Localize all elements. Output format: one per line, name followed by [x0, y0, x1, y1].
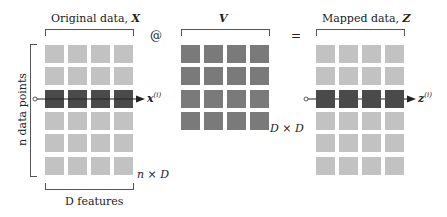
matrix-z-cell [316, 157, 335, 175]
matrix-v-shape-text: D × D [270, 122, 304, 135]
matrix-z-cell [385, 67, 404, 85]
matrix-v-symbol: V [219, 12, 228, 25]
matrix-z-cell [362, 45, 381, 63]
matrix-v-cell [181, 112, 200, 130]
matrix-z-cell [339, 112, 358, 130]
matrix-z-title: Mapped data, Z [322, 12, 411, 25]
matrix-z-cell [362, 157, 381, 175]
equals-operator: = [291, 29, 301, 43]
matrix-v-cell [181, 45, 200, 63]
x-row-vector-superscript: (i) [154, 91, 162, 99]
z-row-vector-superscript: (i) [424, 91, 432, 99]
matrix-v-cell [181, 90, 200, 108]
matrix-v-cell [181, 67, 200, 85]
matrix-v-shape-label: D × D [270, 122, 304, 135]
matmul-operator: @ [150, 29, 162, 43]
matrix-z-cell [385, 157, 404, 175]
matrix-v-cell [227, 45, 246, 63]
matrix-z-cell [339, 134, 358, 152]
matrix-z-cell [316, 67, 335, 85]
matrix-v-cell [204, 45, 223, 63]
matrix-v-cell [227, 112, 246, 130]
matrix-z-top-bracket [316, 29, 405, 36]
z-row-vector-label: z(i) [418, 91, 432, 105]
matrix-z-cell [385, 112, 404, 130]
matrix-v-cell [250, 90, 269, 108]
matrix-v-cell [227, 90, 246, 108]
matrix-v-cell [250, 67, 269, 85]
matrix-z-highlight-cell [385, 90, 404, 108]
matrix-z-title-prefix: Mapped data, [322, 12, 403, 25]
matrix-z-cell [362, 134, 381, 152]
matrix-v-cell [227, 67, 246, 85]
matrix-z-cell [385, 134, 404, 152]
matrix-z-cell [362, 112, 381, 130]
matrix-z-cell [316, 45, 335, 63]
equals-symbol: = [291, 29, 301, 43]
matrix-v-cell [250, 45, 269, 63]
matrix-v-cell [250, 112, 269, 130]
matmul-symbol: @ [150, 29, 162, 43]
matrix-v-top-bracket [181, 29, 270, 36]
matrix-z-highlight-cell [362, 90, 381, 108]
matrix-z-symbol: Z [403, 12, 411, 25]
matrix-z-cell [316, 134, 335, 152]
matrix-v-cell [204, 67, 223, 85]
x-row-arrow [33, 96, 145, 103]
matrix-v-title: V [219, 12, 228, 25]
matrix-v-cell [204, 90, 223, 108]
x-row-vector-label: x(i) [147, 91, 161, 105]
matrix-z-cell [362, 67, 381, 85]
matrix-z-highlight-cell [316, 90, 335, 108]
matrix-z-cell [339, 67, 358, 85]
matrix-z-cell [385, 45, 404, 63]
matrix-z-cell [339, 45, 358, 63]
matrix-v-cell [204, 112, 223, 130]
matrix-z-highlight-cell [339, 90, 358, 108]
matrix-z-cell [316, 112, 335, 130]
matrix-z-cell [339, 157, 358, 175]
